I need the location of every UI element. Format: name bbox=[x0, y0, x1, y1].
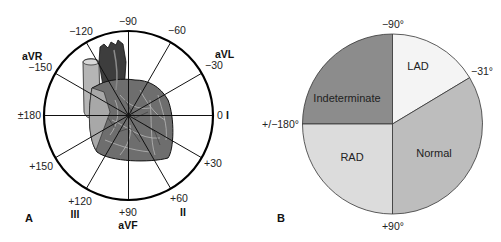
lead-label-I: I bbox=[226, 109, 229, 121]
heart-illustration bbox=[83, 40, 173, 161]
label-plus-60: +60 bbox=[170, 192, 188, 204]
figure-canvas: −90 −120 −60 −150 −30 ±180 0 +150 +30 +1… bbox=[0, 0, 501, 242]
axis-deviation-pie: Indeterminate LAD Normal RAD −90° −31° +… bbox=[262, 18, 493, 232]
boundary-label-left: +/−180° bbox=[262, 118, 299, 130]
label-plus-90: +90 bbox=[119, 206, 137, 218]
label-minus-150: −150 bbox=[28, 61, 52, 73]
lead-label-III: III bbox=[71, 208, 80, 220]
label-zero: 0 bbox=[217, 109, 223, 121]
label-plus-120: +120 bbox=[68, 195, 92, 207]
panel-label-A: A bbox=[25, 212, 33, 224]
label-minus-30: −30 bbox=[205, 59, 223, 71]
segment-label-lad: LAD bbox=[407, 60, 428, 72]
boundary-label-bottom: +90° bbox=[382, 220, 404, 232]
label-plus-minus-180: ±180 bbox=[18, 109, 41, 121]
lead-label-aVR: aVR bbox=[22, 50, 43, 62]
label-minus-120: −120 bbox=[69, 25, 93, 37]
segment-rad bbox=[303, 124, 393, 214]
boundary-label-top: −90° bbox=[382, 18, 404, 30]
segment-label-normal: Normal bbox=[416, 147, 451, 159]
lead-label-aVL: aVL bbox=[215, 48, 235, 60]
lead-label-II: II bbox=[180, 206, 186, 218]
segment-label-rad: RAD bbox=[340, 151, 363, 163]
segment-label-indeterminate: Indeterminate bbox=[313, 92, 380, 104]
panel-label-B: B bbox=[277, 212, 285, 224]
boundary-label-right: −31° bbox=[471, 65, 493, 77]
segment-indeterminate bbox=[303, 34, 393, 124]
label-minus-60: −60 bbox=[168, 24, 186, 36]
label-plus-150: +150 bbox=[29, 160, 53, 172]
hexaxial-diagram: −90 −120 −60 −150 −30 ±180 0 +150 +30 +1… bbox=[18, 15, 235, 231]
label-minus-90: −90 bbox=[119, 15, 137, 27]
lead-label-aVF: aVF bbox=[118, 219, 138, 231]
label-plus-30: +30 bbox=[204, 157, 222, 169]
